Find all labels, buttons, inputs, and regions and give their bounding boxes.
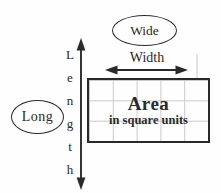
area-subtitle: in square units — [109, 113, 188, 128]
wide-bubble: Wide — [112, 15, 177, 46]
width-axis-label: Width — [122, 50, 172, 66]
length-axis-label: L e n g t h — [63, 48, 77, 176]
wide-bubble-label: Wide — [130, 23, 159, 39]
length-letter: e — [67, 71, 73, 84]
area-rectangle: Area in square units — [87, 78, 210, 143]
length-letter: L — [66, 48, 74, 61]
long-bubble-label: Long — [22, 109, 54, 125]
area-title: Area — [128, 94, 170, 113]
length-letter: g — [67, 117, 74, 130]
width-arrow-icon — [105, 66, 188, 75]
area-diagram: Wide Long Width L e n g t h Area in squa… — [0, 0, 221, 193]
length-letter: h — [67, 163, 74, 176]
length-arrow-icon — [77, 38, 86, 190]
length-letter: n — [67, 94, 74, 107]
long-bubble: Long — [11, 100, 64, 134]
length-letter: t — [68, 140, 72, 153]
